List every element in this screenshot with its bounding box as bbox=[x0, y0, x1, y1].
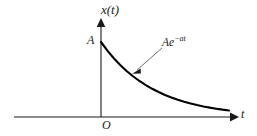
y-axis-label: x(t) bbox=[101, 3, 119, 16]
amplitude-label: A bbox=[87, 34, 94, 46]
curve-equation-label: Ae−at bbox=[162, 35, 186, 48]
origin-label: O bbox=[102, 119, 111, 131]
figure-canvas bbox=[0, 0, 257, 136]
annotation-leader-arrowhead bbox=[132, 69, 141, 74]
annotation-leader bbox=[132, 48, 162, 74]
curve-equation-exponent: −at bbox=[174, 34, 186, 43]
y-axis bbox=[97, 18, 106, 117]
exponential-decay-figure: x(t) A O t Ae−at bbox=[0, 0, 257, 136]
x-axis bbox=[14, 113, 239, 122]
exponential-decay-curve bbox=[101, 42, 229, 110]
y-axis-arrowhead bbox=[97, 18, 106, 27]
annotation-leader-line bbox=[137, 48, 162, 70]
x-axis-label: t bbox=[241, 108, 244, 120]
x-axis-arrowhead bbox=[230, 113, 239, 122]
curve-equation-base: Ae bbox=[162, 36, 174, 48]
